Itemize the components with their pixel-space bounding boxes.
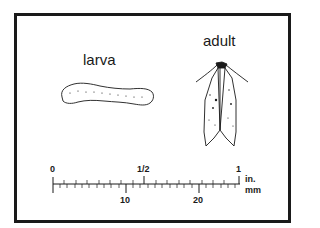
adult-moth-illustration [196,62,248,146]
scale-label-1-inch: 1 [236,165,241,174]
scale-unit-mm: mm [245,186,261,195]
larva-illustration [62,83,154,105]
scale-label-half-inch: 1/2 [137,165,150,174]
scale-label-10-mm: 10 [120,196,130,205]
scale-label-20-mm: 20 [193,196,203,205]
scale-bar [53,176,240,193]
scale-unit-inch: in. [245,175,256,184]
scale-label-0-inch: 0 [50,165,55,174]
